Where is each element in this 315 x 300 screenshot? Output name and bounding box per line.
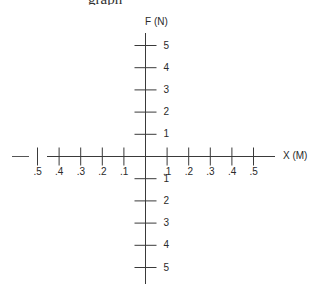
x-tick-label: .5 [250, 167, 258, 177]
x-tick-label: .3 [77, 167, 85, 177]
y-tick-label: 4 [164, 240, 170, 250]
x-tick-label: .2 [98, 167, 106, 177]
x-tick-label: .4 [55, 167, 63, 177]
coordinate-axes [0, 0, 315, 300]
y-tick-label: 3 [164, 218, 170, 228]
x-tick-label: .1 [120, 167, 128, 177]
y-axis-title: F (N) [145, 16, 168, 27]
x-tick-label: .4 [228, 167, 236, 177]
x-tick-label: .3 [206, 167, 214, 177]
x-tick-label: .5 [34, 167, 42, 177]
y-tick-label: 5 [164, 263, 170, 273]
y-tick-label: 1 [164, 129, 170, 139]
y-tick-label: 2 [164, 107, 170, 117]
x-axis-title: X (M) [283, 150, 307, 161]
x-tick-label: .2 [185, 167, 193, 177]
y-tick-label: 5 [164, 41, 170, 51]
x-tick-label: .1 [163, 167, 171, 177]
y-tick-label: 4 [164, 63, 170, 73]
y-tick-label: 3 [164, 85, 170, 95]
y-tick-label: 2 [164, 196, 170, 206]
